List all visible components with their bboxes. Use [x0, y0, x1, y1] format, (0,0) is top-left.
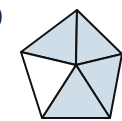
diagram: ) [0, 0, 122, 121]
pentagon-figure [0, 0, 122, 121]
